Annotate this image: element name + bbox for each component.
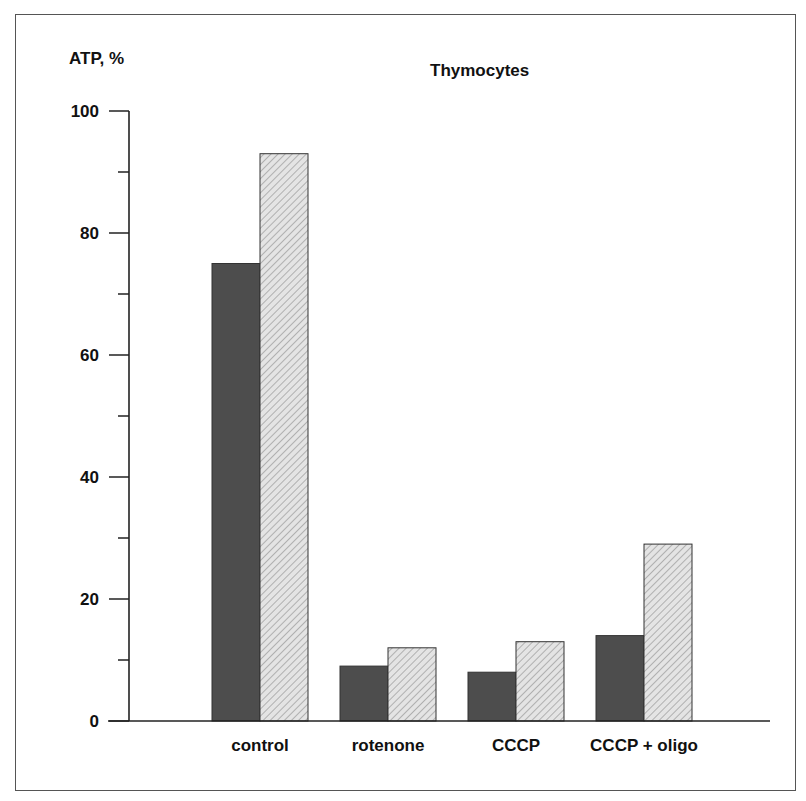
y-tick-label: 0 bbox=[90, 712, 99, 731]
bar-chart: 020406080100controlrotenoneCCCPCCCP + ol… bbox=[0, 0, 806, 801]
bar-control-series-2 bbox=[260, 154, 308, 721]
y-tick-label: 20 bbox=[80, 590, 99, 609]
bar-cccp-series-1 bbox=[468, 672, 516, 721]
y-tick-label: 40 bbox=[80, 468, 99, 487]
x-category-label: CCCP bbox=[492, 736, 540, 755]
x-category-label: CCCP + oligo bbox=[590, 736, 698, 755]
bar-cccp-series-2 bbox=[516, 642, 564, 721]
y-tick-label: 100 bbox=[71, 102, 99, 121]
bar-cccp-oligo-series-2 bbox=[644, 544, 692, 721]
bar-cccp-oligo-series-1 bbox=[596, 636, 644, 721]
x-category-label: rotenone bbox=[352, 736, 425, 755]
x-category-label: control bbox=[231, 736, 289, 755]
bar-control-series-1 bbox=[212, 264, 260, 722]
bar-rotenone-series-2 bbox=[388, 648, 436, 721]
bar-rotenone-series-1 bbox=[340, 666, 388, 721]
y-tick-label: 80 bbox=[80, 224, 99, 243]
y-tick-label: 60 bbox=[80, 346, 99, 365]
bars-group bbox=[212, 154, 692, 721]
